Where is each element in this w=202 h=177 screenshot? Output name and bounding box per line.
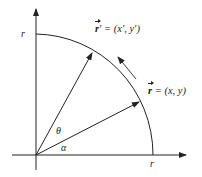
r-prime-mark: ′ (99, 23, 101, 34)
r-prime-coordinates: = (x′, y′) (104, 23, 140, 34)
r-prime-vector-symbol: r (95, 24, 99, 35)
vector-r-prime (36, 53, 92, 155)
rotation-direction-arrow (118, 57, 136, 79)
quarter-circle-arc (36, 34, 153, 155)
alpha-angle-label: α (61, 143, 66, 153)
r-coordinates: = (x, y) (155, 85, 186, 96)
x-axis-tick-label-r: r (150, 159, 154, 169)
r-prime-equation: r′ = (x′, y′) (95, 24, 140, 35)
y-axis-tick-label-r: r (21, 29, 25, 39)
r-vector-symbol: r (148, 86, 152, 97)
theta-angle-label: θ (56, 126, 61, 136)
r-equation: r = (x, y) (148, 86, 186, 97)
vector-r (36, 102, 139, 155)
